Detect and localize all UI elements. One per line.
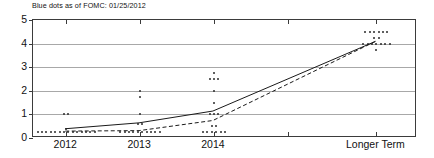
x-tick-mark — [140, 19, 141, 24]
projection-dot — [364, 31, 366, 33]
projection-dot — [141, 131, 143, 133]
projection-dot — [211, 125, 213, 127]
projection-dot — [124, 131, 126, 133]
projection-dot — [132, 131, 134, 133]
x-tick-mark — [214, 19, 215, 24]
projection-dot — [375, 43, 377, 45]
gridline — [33, 91, 415, 92]
projection-dot — [369, 31, 371, 33]
gridline — [33, 67, 415, 68]
projection-dot — [67, 131, 69, 133]
projection-dot — [45, 131, 47, 133]
projection-dot — [224, 131, 226, 133]
projection-dot — [146, 131, 148, 133]
projection-dot — [382, 31, 384, 33]
plot-area — [32, 19, 416, 137]
projection-dot — [217, 78, 219, 80]
projection-dot — [94, 131, 96, 133]
projection-dot — [63, 131, 65, 133]
x-tick-label: 2014 — [201, 138, 224, 150]
projection-dot — [213, 113, 215, 115]
y-tick-mark — [29, 44, 33, 45]
projection-dot — [159, 131, 161, 133]
y-tick-mark — [29, 114, 33, 115]
projection-dot — [213, 102, 215, 104]
projection-dot — [384, 43, 386, 45]
x-tick-mark — [376, 19, 377, 24]
projection-dot — [389, 43, 391, 45]
projection-dot — [380, 43, 382, 45]
projection-dot — [154, 131, 156, 133]
projection-dot — [141, 123, 143, 125]
projection-dot — [217, 113, 219, 115]
projection-dot — [139, 113, 141, 115]
projection-dot — [209, 113, 211, 115]
projection-dot — [76, 131, 78, 133]
projection-dot — [119, 131, 121, 133]
y-tick-mark — [29, 91, 33, 92]
projection-dot — [375, 49, 377, 51]
projection-dot — [72, 131, 74, 133]
projection-dot — [378, 31, 380, 33]
y-tick-label: 4 — [21, 37, 27, 49]
projection-dot — [373, 31, 375, 33]
y-tick-label: 3 — [21, 60, 27, 72]
gridline — [33, 44, 415, 45]
projection-dot — [89, 131, 91, 133]
projection-dot — [373, 37, 375, 39]
chart-title: Blue dots as of FOMC: 01/25/2012 — [32, 1, 146, 10]
projection-dot — [362, 43, 364, 45]
fomc-dot-plot-chart: Blue dots as of FOMC: 01/25/2012 012345 … — [0, 0, 434, 158]
y-tick-label: 1 — [21, 107, 27, 119]
y-tick-label: 5 — [21, 13, 27, 25]
x-tick-label: Longer Term — [346, 138, 405, 150]
projection-dot — [386, 31, 388, 33]
x-tick-label: 2013 — [127, 138, 150, 150]
projection-dot — [367, 43, 369, 45]
projection-dot — [37, 131, 39, 133]
y-tick-mark — [29, 20, 33, 21]
projection-dot — [137, 123, 139, 125]
y-tick-mark — [29, 67, 33, 68]
projection-dot — [211, 131, 213, 133]
y-tick-label: 0 — [21, 131, 27, 143]
projection-dot — [371, 43, 373, 45]
projection-dot — [378, 37, 380, 39]
y-tick-label: 2 — [21, 84, 27, 96]
x-tick-mark — [376, 132, 377, 137]
projection-dot — [213, 78, 215, 80]
projection-dot — [54, 131, 56, 133]
x-tick-mark — [288, 19, 289, 24]
projection-dot — [213, 72, 215, 74]
projection-dot — [139, 90, 141, 92]
x-tick-mark — [66, 19, 67, 24]
projection-dot — [220, 131, 222, 133]
y-tick-mark — [29, 138, 33, 139]
gridline — [33, 114, 415, 115]
projection-dot — [215, 131, 217, 133]
projection-dot — [81, 131, 83, 133]
x-tick-label: 2012 — [54, 138, 77, 150]
projection-dot — [63, 113, 65, 115]
projection-dot — [128, 131, 130, 133]
projection-dot — [139, 96, 141, 98]
projection-dot — [41, 131, 43, 133]
projection-dot — [206, 131, 208, 133]
projection-dot — [85, 131, 87, 133]
projection-dot — [137, 131, 139, 133]
projection-dot — [50, 131, 52, 133]
projection-dot — [150, 131, 152, 133]
projection-dot — [202, 131, 204, 133]
projection-dot — [59, 131, 61, 133]
x-tick-mark — [288, 132, 289, 137]
projection-dot — [67, 113, 69, 115]
projection-dot — [213, 90, 215, 92]
projection-dot — [65, 128, 67, 130]
projection-dot — [209, 78, 211, 80]
y-axis: 012345 — [0, 19, 30, 137]
projection-dot — [215, 125, 217, 127]
